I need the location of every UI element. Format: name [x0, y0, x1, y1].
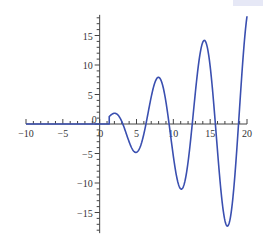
y-tick-label: 15 [83, 31, 93, 42]
y-tick-label: 10 [83, 60, 93, 71]
y-tick-label: −10 [77, 178, 93, 189]
x-tick-label: 20 [242, 128, 252, 139]
y-tick-label: −5 [82, 149, 93, 160]
x-tick-label: 5 [134, 128, 139, 139]
x-tick-label: −10 [18, 128, 34, 139]
y-tick-label: 5 [88, 90, 93, 101]
x-tick-label: 15 [205, 128, 215, 139]
x-tick-label: 0 [98, 128, 103, 139]
x-tick-label: −5 [58, 128, 69, 139]
plot-area: −10−505101520−15−10−5510150 [0, 0, 263, 244]
y-tick-label: −15 [77, 208, 93, 219]
